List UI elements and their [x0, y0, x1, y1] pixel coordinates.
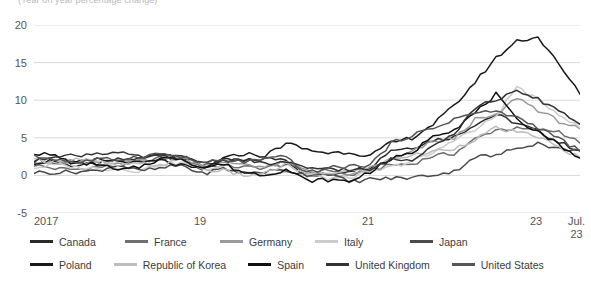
legend-item-germany[interactable]: Germany — [220, 236, 315, 248]
chart-subtitle: (Year on year percentage change) — [18, 0, 157, 5]
gridlines — [34, 25, 580, 213]
legend-item-united-kingdom[interactable]: United Kingdom — [326, 259, 430, 271]
legend-swatch-icon — [410, 240, 433, 243]
legend-item-france[interactable]: France — [125, 236, 220, 248]
y-tick-label-10: 10 — [15, 94, 27, 106]
legend-swatch-icon — [30, 263, 53, 266]
legend-item-label: Japan — [439, 236, 468, 248]
chart-legend: CanadaFranceGermanyItalyJapan PolandRepu… — [30, 230, 575, 276]
legend-row-2: PolandRepublic of KoreaSpainUnited Kingd… — [30, 253, 575, 276]
legend-item-label: Republic of Korea — [143, 259, 226, 271]
x-tick-label-jul: Jul. — [568, 215, 585, 228]
series-line-poland — [34, 37, 580, 170]
legend-swatch-icon — [125, 240, 148, 243]
legend-item-republic-of-korea[interactable]: Republic of Korea — [114, 259, 226, 271]
legend-item-spain[interactable]: Spain — [248, 259, 304, 271]
inflation-line-chart: (Year on year percentage change) 2015105… — [0, 0, 591, 287]
x-tick-label-21: 21 — [362, 215, 374, 227]
y-tick-label-15: 15 — [15, 57, 27, 69]
x-tick-label-2017: 2017 — [34, 215, 58, 227]
legend-row-1: CanadaFranceGermanyItalyJapan — [30, 230, 575, 253]
legend-swatch-icon — [326, 263, 349, 266]
legend-item-label: Poland — [59, 259, 92, 271]
legend-item-label: Germany — [249, 236, 292, 248]
y-tick-label--5: -5 — [17, 207, 27, 219]
legend-item-canada[interactable]: Canada — [30, 236, 125, 248]
y-tick-label-0: 0 — [21, 169, 27, 181]
legend-swatch-icon — [30, 240, 53, 243]
legend-item-label: Italy — [344, 236, 363, 248]
legend-item-label: United States — [481, 259, 544, 271]
x-tick-label-23: 23 — [530, 215, 542, 227]
x-tick-label-19: 19 — [194, 215, 206, 227]
legend-swatch-icon — [315, 240, 338, 243]
legend-swatch-icon — [114, 263, 137, 266]
legend-item-label: United Kingdom — [355, 259, 430, 271]
legend-item-poland[interactable]: Poland — [30, 259, 92, 271]
legend-swatch-icon — [220, 240, 243, 243]
legend-item-label: Canada — [59, 236, 96, 248]
plot-area: 20151050-5 2017192123Jul.23 — [34, 25, 580, 213]
legend-swatch-icon — [452, 263, 475, 266]
chart-canvas — [34, 25, 580, 213]
legend-item-united-states[interactable]: United States — [452, 259, 544, 271]
y-tick-label-20: 20 — [15, 19, 27, 31]
legend-item-label: France — [154, 236, 187, 248]
legend-item-japan[interactable]: Japan — [410, 236, 505, 248]
y-tick-label-5: 5 — [21, 132, 27, 144]
legend-item-italy[interactable]: Italy — [315, 236, 410, 248]
legend-item-label: Spain — [277, 259, 304, 271]
series-lines — [34, 37, 580, 183]
legend-swatch-icon — [248, 263, 271, 266]
